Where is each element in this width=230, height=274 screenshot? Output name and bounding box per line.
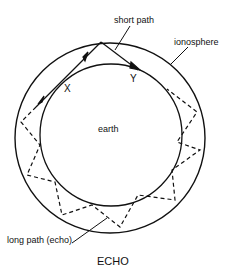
long-path-label: long path (echo) <box>7 236 72 245</box>
point-x-label: X <box>64 84 71 94</box>
earth-label: earth <box>98 125 119 134</box>
point-y-label: Y <box>130 74 137 84</box>
diagram-caption: ECHO <box>97 256 129 267</box>
short-path-label: short path <box>114 16 154 25</box>
long-path-leader <box>72 218 107 243</box>
short-path-leader <box>115 26 130 50</box>
earth-circle <box>40 64 182 206</box>
ionosphere-leader <box>170 47 188 65</box>
ionosphere-circle <box>15 43 205 233</box>
ionosphere-label: ionosphere <box>174 38 219 47</box>
